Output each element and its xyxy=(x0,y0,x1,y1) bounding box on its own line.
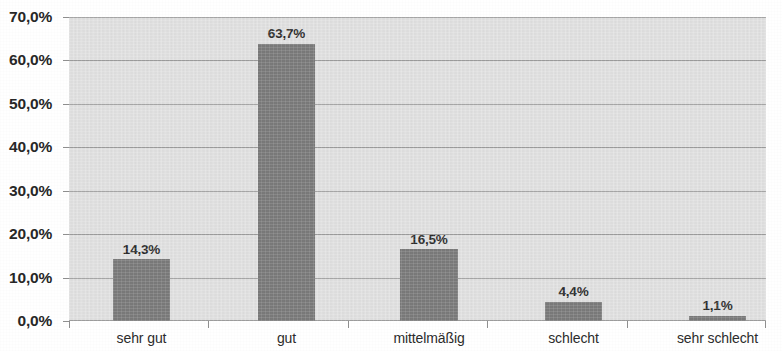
bar-gut xyxy=(258,44,315,321)
x-tick-1 xyxy=(208,321,209,328)
bar-sehr-gut xyxy=(113,259,170,321)
y-tick-label-50: 50,0% xyxy=(9,95,52,113)
bar-mittelmaessig xyxy=(400,249,458,321)
x-category-label-sehr-schlecht: sehr schlecht xyxy=(677,330,758,346)
plot-area: 14,3% 63,7% 16,5% 4,4% 1,1% xyxy=(69,17,766,321)
bar-value-label-mittelmaessig: 16,5% xyxy=(410,232,447,247)
x-axis: sehr gut gut mittelmäßig schlecht sehr s… xyxy=(69,330,766,351)
y-tick-label-60: 60,0% xyxy=(9,51,52,69)
x-tick-4 xyxy=(627,321,628,328)
x-tick-3 xyxy=(487,321,488,328)
y-tick-label-30: 30,0% xyxy=(9,182,52,200)
y-tick-label-10: 10,0% xyxy=(9,269,52,287)
x-tick-2 xyxy=(348,321,349,328)
bar-value-label-sehr-schlecht: 1,1% xyxy=(703,298,733,313)
bar-value-label-gut: 63,7% xyxy=(268,26,305,41)
y-axis: 70,0% 60,0% 50,0% 40,0% 30,0% 20,0% 10,0… xyxy=(0,0,64,351)
bars-layer xyxy=(69,17,766,321)
bar-schlecht xyxy=(545,302,602,321)
x-category-label-mittelmaessig: mittelmäßig xyxy=(393,330,464,346)
y-tick-label-70: 70,0% xyxy=(9,8,52,26)
bar-value-label-schlecht: 4,4% xyxy=(559,284,589,299)
x-tick-5 xyxy=(765,321,766,328)
x-axis-ticks xyxy=(69,321,766,329)
y-tick-label-0: 0,0% xyxy=(17,312,52,330)
x-category-label-schlecht: schlecht xyxy=(548,330,599,346)
x-category-label-sehr-gut: sehr gut xyxy=(117,330,167,346)
bar-chart: 70,0% 60,0% 50,0% 40,0% 30,0% 20,0% 10,0… xyxy=(0,0,782,351)
y-tick-label-40: 40,0% xyxy=(9,138,52,156)
x-category-label-gut: gut xyxy=(277,330,296,346)
bar-value-label-sehr-gut: 14,3% xyxy=(123,242,160,257)
y-tick-label-20: 20,0% xyxy=(9,225,52,243)
x-tick-0 xyxy=(69,321,70,328)
